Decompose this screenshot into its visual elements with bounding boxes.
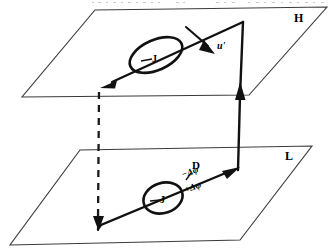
velocity-label: u' — [217, 41, 225, 51]
upper-vortex-label: J — [152, 54, 157, 64]
upper-flux-line — [112, 22, 243, 82]
scan-noise — [92, 2, 324, 3]
upper-flux-arrowhead — [100, 81, 117, 89]
vertical-connector-arrowhead — [235, 82, 246, 100]
lower-plane-label: L — [285, 150, 293, 162]
upper-plane-label: H — [294, 12, 303, 24]
dashed-connector — [98, 92, 99, 222]
figure-canvas — [0, 0, 332, 250]
lower-vortex-label: J — [160, 195, 165, 205]
lower-vortex-leader — [150, 200, 160, 201]
lower-flux-arrowhead — [222, 167, 240, 179]
upper-vortex-leader — [141, 59, 152, 61]
figure-root: H L J J u' D −Δφ +Δφ — [0, 0, 332, 250]
upper-plane-outline — [22, 7, 327, 97]
